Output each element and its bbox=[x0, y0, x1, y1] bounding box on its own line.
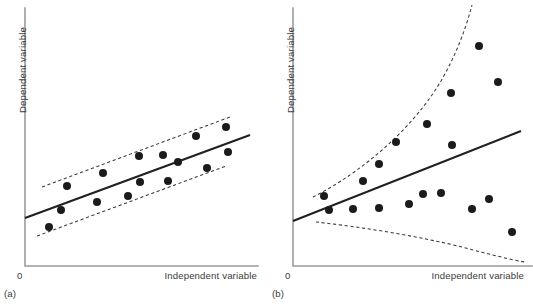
data-point bbox=[174, 158, 182, 166]
data-point bbox=[392, 138, 400, 146]
data-point bbox=[99, 169, 107, 177]
data-point bbox=[124, 192, 132, 200]
y-axis-label-b: Dependent variable bbox=[285, 27, 296, 113]
data-point bbox=[375, 204, 383, 212]
y-axis-label-a: Dependent variable bbox=[17, 27, 28, 113]
data-point bbox=[447, 89, 455, 97]
data-point bbox=[405, 200, 413, 208]
data-point bbox=[63, 182, 71, 190]
data-point bbox=[320, 192, 328, 200]
data-point bbox=[475, 42, 483, 50]
lower-confidence-band bbox=[37, 166, 226, 236]
origin-label-b: 0 bbox=[285, 270, 291, 281]
data-point bbox=[325, 206, 333, 214]
data-point bbox=[45, 223, 53, 231]
lower-confidence-band bbox=[316, 222, 525, 262]
data-point bbox=[508, 228, 516, 236]
data-point bbox=[437, 189, 445, 197]
data-point bbox=[136, 178, 144, 186]
data-point bbox=[93, 198, 101, 206]
data-point bbox=[468, 205, 476, 213]
x-axis-label-b: Independent variable bbox=[431, 270, 524, 281]
origin-label-a: 0 bbox=[17, 270, 23, 281]
panel-b: Dependent variable Independent variable … bbox=[267, 0, 533, 307]
data-point bbox=[448, 141, 456, 149]
data-point bbox=[57, 206, 65, 214]
panel-a: Dependent variable Independent variable … bbox=[0, 0, 266, 307]
data-point bbox=[135, 152, 143, 160]
figure-container: Dependent variable Independent variable … bbox=[0, 0, 533, 307]
regression-line bbox=[25, 135, 250, 218]
data-point bbox=[423, 120, 431, 128]
panel-caption-a: (a) bbox=[4, 288, 16, 299]
data-point bbox=[419, 190, 427, 198]
axis-lines bbox=[293, 8, 532, 266]
data-point bbox=[224, 148, 232, 156]
data-point bbox=[159, 151, 167, 159]
data-point bbox=[349, 205, 357, 213]
data-point bbox=[494, 78, 502, 86]
data-point bbox=[485, 195, 493, 203]
x-axis-label-a: Independent variable bbox=[164, 270, 257, 281]
data-point bbox=[222, 123, 230, 131]
data-point bbox=[375, 160, 383, 168]
data-point bbox=[359, 177, 367, 185]
data-point bbox=[203, 164, 211, 172]
scatter-plot-b bbox=[267, 0, 533, 307]
panel-caption-b: (b) bbox=[272, 288, 284, 299]
scatter-plot-a bbox=[0, 0, 266, 307]
upper-confidence-band bbox=[313, 5, 472, 197]
data-point bbox=[164, 177, 172, 185]
data-point bbox=[192, 132, 200, 140]
